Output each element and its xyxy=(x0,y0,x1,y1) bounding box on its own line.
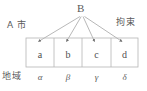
region-label-delta: δ xyxy=(111,73,138,82)
region-label-beta: β xyxy=(54,73,82,82)
label-region: 地域 xyxy=(2,72,21,81)
label-constraint: 拘束 xyxy=(116,18,135,27)
table-cell-label-c: c xyxy=(82,50,111,60)
table-cell-label-b: b xyxy=(54,50,82,60)
tree-root-node-label: B xyxy=(77,3,84,14)
label-a-market: A 市 xyxy=(7,21,27,30)
region-label-gamma: γ xyxy=(82,73,111,82)
table-cell-label-a: a xyxy=(26,50,54,60)
region-label-alpha: α xyxy=(26,73,54,82)
diagram-canvas: B A 市 拘束 地域 a b c d α β γ δ xyxy=(0,0,147,91)
table-cell-label-d: d xyxy=(111,50,138,60)
